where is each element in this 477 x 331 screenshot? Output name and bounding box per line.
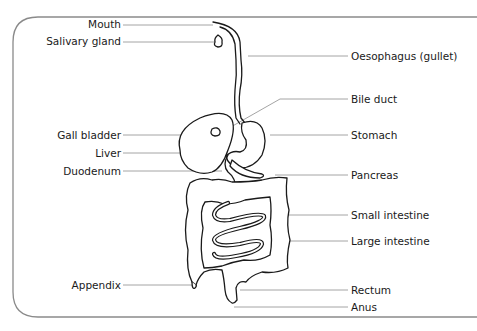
label-anus: Anus xyxy=(351,301,377,313)
gall-bladder-shape xyxy=(211,128,220,136)
label-stomach: Stomach xyxy=(351,129,397,141)
label-large-intestine: Large intestine xyxy=(351,235,430,247)
label-salivary-gland: Salivary gland xyxy=(46,35,121,47)
label-small-intestine: Small intestine xyxy=(351,209,429,221)
label-rectum: Rectum xyxy=(351,284,391,296)
label-mouth: Mouth xyxy=(88,18,121,30)
label-oesophagus: Oesophagus (gullet) xyxy=(351,50,457,62)
digestive-system-diagram: Mouth Salivary gland Gall bladder Liver … xyxy=(0,0,477,331)
label-bile-duct: Bile duct xyxy=(351,93,397,105)
label-liver: Liver xyxy=(95,147,121,159)
label-duodenum: Duodenum xyxy=(63,165,121,177)
salivary-gland-shape xyxy=(214,35,222,47)
label-gall-bladder: Gall bladder xyxy=(57,129,121,141)
label-pancreas: Pancreas xyxy=(351,169,398,181)
label-appendix: Appendix xyxy=(72,279,121,291)
